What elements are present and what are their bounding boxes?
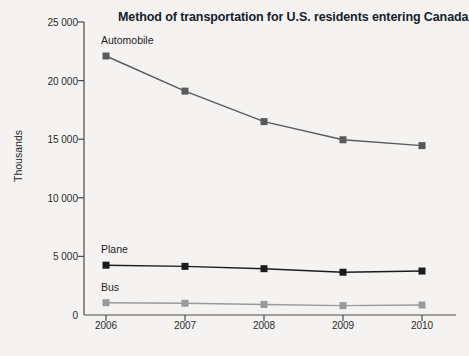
series-label-automobile: Automobile (101, 34, 154, 46)
data-point-marker[interactable] (182, 263, 189, 270)
chart-container: Method of transportation for U.S. reside… (0, 0, 469, 356)
x-axis-tick-label: 2008 (241, 320, 287, 331)
data-point-marker[interactable] (419, 268, 426, 275)
data-point-marker[interactable] (103, 52, 110, 59)
data-point-marker[interactable] (182, 300, 189, 307)
data-point-marker[interactable] (419, 142, 426, 149)
data-point-marker[interactable] (340, 269, 347, 276)
data-point-marker[interactable] (340, 302, 347, 309)
x-axis-tick-label: 2006 (83, 320, 129, 331)
data-point-marker[interactable] (182, 88, 189, 95)
x-axis-tick-label: 2007 (162, 320, 208, 331)
x-axis-tick-label: 2009 (320, 320, 366, 331)
series-line-automobile (106, 56, 422, 146)
x-axis-tick-label: 2010 (399, 320, 445, 331)
series-label-bus: Bus (101, 281, 119, 293)
data-point-marker[interactable] (261, 265, 268, 272)
data-point-marker[interactable] (419, 302, 426, 309)
data-point-marker[interactable] (261, 301, 268, 308)
series-label-plane: Plane (101, 243, 128, 255)
data-point-marker[interactable] (261, 118, 268, 125)
data-point-marker[interactable] (340, 136, 347, 143)
plot-area (0, 0, 469, 356)
data-point-marker[interactable] (103, 262, 110, 269)
data-point-marker[interactable] (103, 299, 110, 306)
